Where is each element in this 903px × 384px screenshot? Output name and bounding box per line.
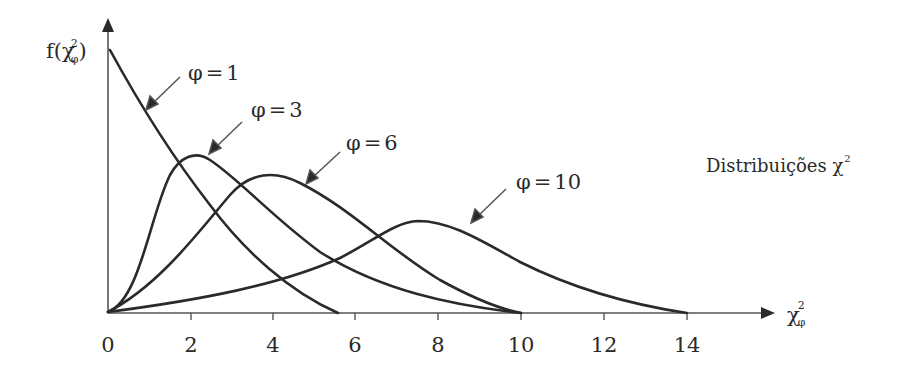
annotation-phi-1: φ=1: [188, 61, 240, 85]
y-axis-arrow-icon: [102, 18, 114, 32]
curve-phi-1: [110, 50, 338, 313]
x-axis-label: χ2φ: [787, 299, 806, 329]
tick-label: 12: [591, 333, 618, 357]
tick-label: 4: [266, 333, 279, 357]
arrow-head-icon: [306, 170, 318, 184]
tick-label: 6: [348, 333, 361, 357]
x-ticks: [191, 313, 687, 320]
annotation-phi-6: φ=6: [346, 131, 398, 155]
y-axis-label: f(χ2φ): [46, 37, 87, 66]
curves: [108, 50, 687, 313]
arrow-head-icon: [146, 96, 158, 110]
tick-label: 8: [431, 333, 444, 357]
annotation-phi-3: φ=3: [251, 98, 303, 122]
tick-label: 10: [508, 333, 535, 357]
tick-label: 14: [674, 333, 701, 357]
curve-phi-6: [108, 175, 521, 313]
x-tick-labels: 0 2 4 6 8 10 12 14: [101, 333, 700, 357]
tick-label: 2: [184, 333, 197, 357]
chi-square-chart: 0 2 4 6 8 10 12 14 φ=1 φ=3 φ=6: [0, 0, 903, 384]
tick-label: 0: [101, 333, 114, 357]
chart-title: Distribuições χ2: [706, 153, 851, 176]
annotation-arrows: [146, 77, 506, 223]
annotation-phi-10: φ=10: [516, 170, 581, 194]
x-axis-arrow-icon: [761, 307, 775, 319]
arrow-head-icon: [209, 140, 221, 154]
arrow-head-icon: [471, 209, 483, 223]
